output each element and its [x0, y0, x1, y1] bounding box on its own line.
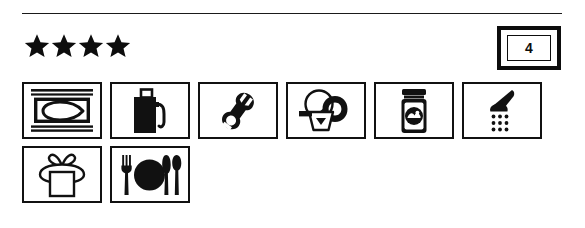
amenity-icon-dining — [110, 146, 190, 203]
fuel-pump-icon — [130, 88, 170, 134]
star-icon — [24, 33, 50, 59]
shower-icon — [480, 88, 524, 134]
amenity-icon-preserves-jar — [374, 82, 454, 139]
ironing-board-icon — [29, 88, 95, 134]
star-rating — [24, 33, 131, 59]
top-horizontal-rule — [22, 13, 562, 14]
star-icon — [105, 33, 131, 59]
laundry-basket-icon — [297, 88, 355, 134]
amenity-icon-wrench — [198, 82, 278, 139]
amenity-icon-row — [22, 146, 542, 203]
amenity-listing-page: 4 — [0, 0, 585, 228]
amenity-icon-fuel-pump — [110, 82, 190, 139]
star-icon — [78, 33, 104, 59]
star-icon — [51, 33, 77, 59]
amenity-icon-grid — [22, 82, 542, 210]
amenity-icon-laundry-basket — [286, 82, 366, 139]
category-number-badge: 4 — [497, 26, 561, 70]
dining-place-setting-icon — [118, 153, 182, 197]
amenity-icon-gift-package — [22, 146, 102, 203]
preserves-jar-icon — [397, 88, 431, 134]
amenity-icon-row — [22, 82, 542, 139]
category-badge-frame: 4 — [507, 35, 551, 61]
amenity-icon-shower — [462, 82, 542, 139]
gift-package-icon — [34, 152, 90, 198]
amenity-icon-ironing-board — [22, 82, 102, 139]
wrench-icon — [214, 88, 262, 134]
category-badge-value: 4 — [525, 41, 533, 55]
